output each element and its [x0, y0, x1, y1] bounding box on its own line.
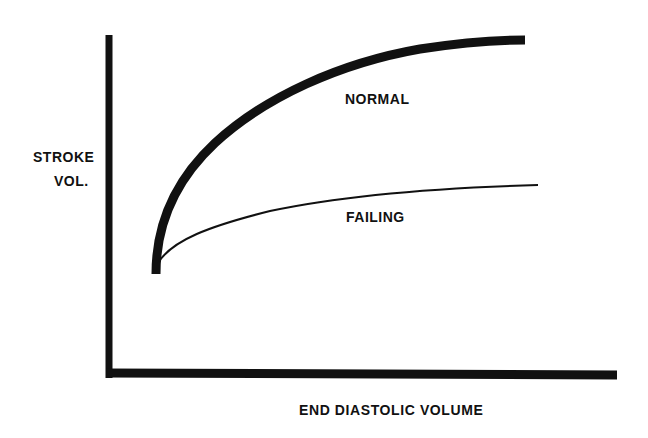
frank-starling-chart: [0, 0, 648, 438]
y-axis-label-line1: STROKE: [33, 149, 94, 165]
normal-curve-label: NORMAL: [345, 91, 409, 107]
x-axis-label: END DIASTOLIC VOLUME: [299, 402, 483, 418]
normal-curve: [156, 40, 525, 274]
failing-curve-label: FAILING: [346, 209, 405, 225]
x-axis: [106, 373, 617, 375]
y-axis-label-line2: VOL.: [54, 173, 89, 189]
